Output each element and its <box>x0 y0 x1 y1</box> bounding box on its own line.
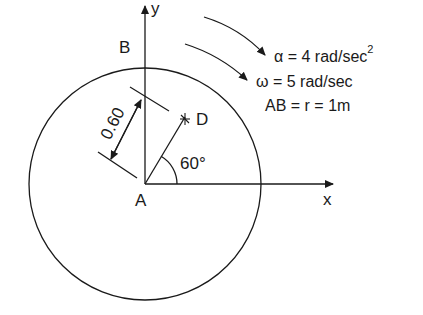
omega-value: = 5 rad/sec <box>269 73 353 90</box>
point-B-label: B <box>119 39 130 56</box>
alpha-equation: α = 4 rad/sec2 <box>274 44 373 65</box>
dim-ext-bottom <box>98 152 137 178</box>
alpha-exponent: 2 <box>367 43 373 55</box>
radius-equation: AB = r = 1m <box>265 98 350 114</box>
omega-symbol: ω <box>256 73 269 90</box>
angle-arc <box>161 156 177 184</box>
dim-ext-top <box>130 87 169 111</box>
alpha-value: = 4 rad/sec <box>283 48 367 65</box>
diagram-canvas: y B A x D 60° 0.60 α = 4 rad/sec2 ω = 5 … <box>0 0 423 315</box>
omega-equation: ω = 5 rad/sec <box>256 74 353 90</box>
angle-label: 60° <box>180 155 206 172</box>
x-axis-label: x <box>323 191 332 208</box>
alpha-arrow <box>204 17 265 55</box>
y-axis-label: y <box>151 0 160 17</box>
alpha-symbol: α <box>274 48 283 65</box>
line-AD <box>145 117 185 184</box>
point-A-label: A <box>135 192 146 209</box>
point-D-label: D <box>196 111 208 128</box>
omega-arrow <box>185 44 247 80</box>
